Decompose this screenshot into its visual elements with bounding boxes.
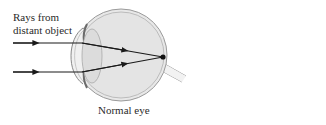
normal-eye-diagram: Rays from distant object Normal eye	[0, 0, 326, 125]
caption: Normal eye	[98, 104, 150, 116]
rays-label-line1: Rays from	[13, 11, 60, 23]
focal-point	[160, 54, 165, 59]
rays-label-line2: distant object	[13, 24, 72, 36]
cornea	[71, 28, 83, 84]
lens	[82, 29, 102, 83]
